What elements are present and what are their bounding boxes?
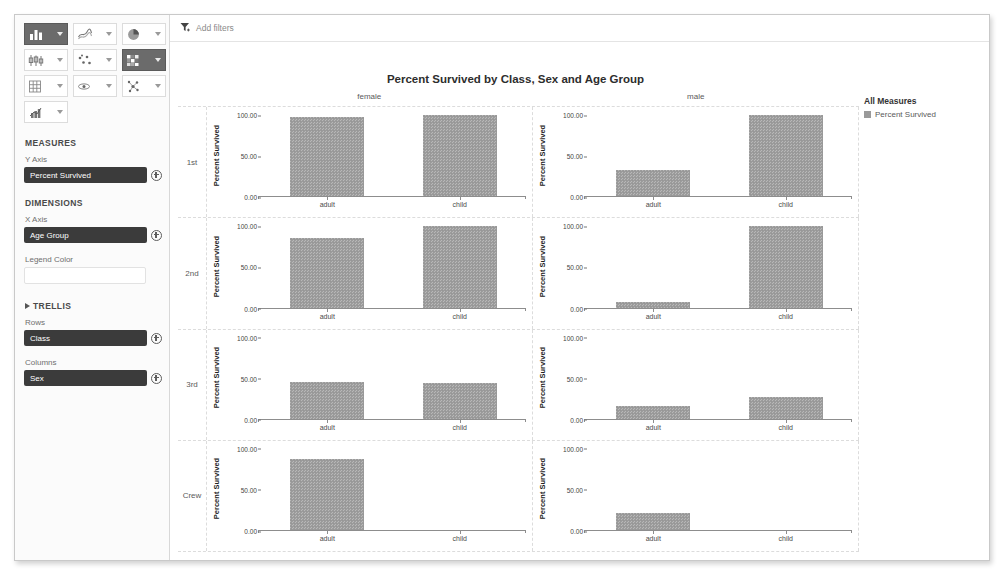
y-axis-tick-label: 0.00 [549, 305, 583, 312]
bar[interactable] [290, 459, 364, 531]
bar[interactable] [423, 226, 497, 308]
viz-type-combo-chart-button[interactable] [24, 101, 68, 123]
trellis-rows-pill-label: Class [30, 334, 50, 343]
viz-type-line-chart-button[interactable] [73, 23, 117, 45]
bar-series [261, 226, 526, 308]
trellis-columns-pill[interactable]: Sex [24, 370, 147, 386]
trellis-row-header: 3rd [178, 330, 206, 440]
bar[interactable] [290, 238, 364, 309]
legend-item[interactable]: Percent Survived [864, 110, 982, 119]
add-filters-label[interactable]: Add filters [196, 23, 234, 33]
viz-type-pie-chart-button[interactable] [122, 23, 166, 45]
viz-type-parallel-coords-button[interactable] [73, 75, 117, 97]
bar[interactable] [749, 397, 823, 419]
y-axis-tick-label: 100.00 [549, 334, 583, 341]
trellis-row: 1stPercent Survived0.0050.00100.00adultc… [178, 106, 859, 217]
add-y-axis-icon[interactable] [151, 170, 162, 181]
legend-color-shelf[interactable] [24, 267, 146, 284]
bar-slot [587, 115, 720, 197]
heatmap-icon [126, 53, 142, 68]
trellis-rows-pill[interactable]: Class [24, 330, 147, 346]
scatter-plot-icon [77, 53, 93, 68]
table-grid-icon [28, 79, 44, 94]
x-axis-shelf: Age Group [24, 227, 162, 243]
y-axis-title: Percent Survived [537, 107, 548, 203]
add-trellis-row-icon[interactable] [151, 333, 162, 344]
x-axis-tick-labels: adultchild [261, 424, 526, 436]
y-axis-tick-label: 100.00 [223, 223, 257, 230]
y-axis-tick-label: 0.00 [223, 305, 257, 312]
add-x-axis-icon[interactable] [151, 230, 162, 241]
y-axis-tick-label: 50.00 [223, 264, 257, 271]
y-axis-title: Percent Survived [211, 107, 222, 203]
chevron-down-icon[interactable] [106, 84, 112, 88]
plot-area [261, 115, 526, 197]
x-axis-tick-label: adult [261, 201, 394, 213]
bar-series [261, 338, 526, 420]
visualization-type-toolbar [24, 23, 166, 123]
bar[interactable] [423, 383, 497, 420]
bar[interactable] [290, 117, 364, 197]
filter-icon[interactable] [180, 19, 191, 37]
x-axis-tick-labels: adultchild [587, 201, 852, 213]
trellis-panel: Percent Survived0.0050.00100.00adultchil… [206, 330, 532, 440]
chevron-down-icon[interactable] [155, 58, 161, 62]
y-axis-shelf: Percent Survived [24, 167, 162, 183]
y-axis-tick-label: 0.00 [549, 416, 583, 423]
bar-slot [394, 338, 527, 420]
y-axis-tick-label: 100.00 [223, 334, 257, 341]
chevron-down-icon[interactable] [57, 84, 63, 88]
y-axis-tick-label: 100.00 [549, 223, 583, 230]
x-axis-tick-label: child [394, 535, 527, 547]
trellis-panels: 1stPercent Survived0.0050.00100.00adultc… [178, 106, 859, 552]
bar-slot [720, 115, 853, 197]
bar-series [261, 449, 526, 531]
y-axis-tick-label: 0.00 [223, 416, 257, 423]
x-axis-tick-label: child [394, 201, 527, 213]
viz-type-box-plot-button[interactable] [24, 49, 68, 71]
trellis-panel: Percent Survived0.0050.00100.00adultchil… [206, 218, 532, 328]
chevron-down-icon[interactable] [57, 110, 63, 114]
chevron-down-icon[interactable] [155, 32, 161, 36]
x-axis-tick-label: child [720, 424, 853, 436]
filter-bar: Add filters [170, 15, 989, 42]
x-axis-tick-labels: adultchild [261, 535, 526, 547]
viz-type-heatmap-button[interactable] [122, 49, 166, 71]
x-axis-tick-label: child [720, 313, 853, 325]
y-axis-tick-label: 100.00 [223, 112, 257, 119]
bar-slot [261, 115, 394, 197]
trellis-row-header: 1st [178, 107, 206, 217]
x-axis-pill[interactable]: Age Group [24, 227, 147, 243]
x-axis-tick-labels: adultchild [261, 201, 526, 213]
chevron-down-icon[interactable] [106, 32, 112, 36]
x-axis-tick-label: adult [587, 535, 720, 547]
trellis-heading-label: TRELLIS [33, 301, 71, 311]
x-axis-tick-label: child [720, 535, 853, 547]
bar[interactable] [749, 226, 823, 308]
chevron-down-icon[interactable] [106, 58, 112, 62]
chevron-down-icon[interactable] [155, 84, 161, 88]
bar-slot [261, 449, 394, 531]
trellis-section-heading[interactable]: TRELLIS [25, 301, 162, 311]
bar[interactable] [423, 115, 497, 197]
x-axis-line [258, 530, 526, 531]
add-trellis-column-icon[interactable] [151, 373, 162, 384]
chevron-down-icon[interactable] [57, 58, 63, 62]
network-graph-icon [126, 79, 142, 94]
chevron-down-icon[interactable] [57, 32, 63, 36]
parallel-coords-icon [77, 79, 93, 94]
bar[interactable] [616, 513, 690, 531]
measures-section-heading: MEASURES [25, 138, 162, 148]
y-axis-pill[interactable]: Percent Survived [24, 167, 147, 183]
bar[interactable] [616, 170, 690, 197]
bar[interactable] [290, 382, 364, 420]
bar[interactable] [616, 406, 690, 419]
viz-type-table-grid-button[interactable] [24, 75, 68, 97]
y-axis-tick-label: 50.00 [223, 375, 257, 382]
viz-type-bar-chart-button[interactable] [24, 23, 68, 45]
bar[interactable] [749, 115, 823, 197]
y-axis-tick-label: 0.00 [549, 194, 583, 201]
viz-type-network-graph-button[interactable] [122, 75, 166, 97]
viz-type-scatter-plot-button[interactable] [73, 49, 117, 71]
y-axis-tick-label: 50.00 [223, 486, 257, 493]
